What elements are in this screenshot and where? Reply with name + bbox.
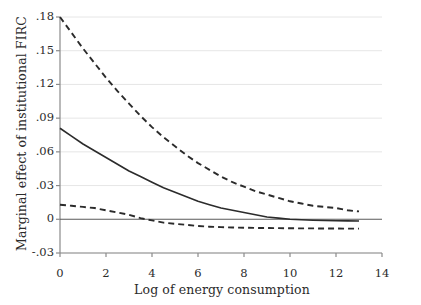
x-tick-label: 8 bbox=[240, 266, 247, 280]
y-tick-label: 0 bbox=[20, 213, 54, 225]
y-tick-label: .12 bbox=[20, 78, 54, 90]
y-tick-label: -.03 bbox=[20, 247, 54, 259]
x-tick-label: 10 bbox=[283, 266, 298, 280]
data-series bbox=[60, 17, 359, 229]
y-tick-label: .06 bbox=[20, 146, 54, 158]
y-tick-label: .03 bbox=[20, 180, 54, 192]
x-axis-title: Log of energy consumption bbox=[60, 282, 384, 297]
gridlines bbox=[60, 17, 382, 253]
y-tick-label: .09 bbox=[20, 112, 54, 124]
y-tick-label: .18 bbox=[20, 11, 54, 23]
plot-area bbox=[0, 0, 421, 305]
x-tick-label: 12 bbox=[329, 266, 344, 280]
x-tick-label: 0 bbox=[56, 266, 63, 280]
x-tick-label: 14 bbox=[375, 266, 390, 280]
x-tick-label: 6 bbox=[194, 266, 201, 280]
axis-lines bbox=[60, 17, 382, 253]
marginal-effect-chart: Marginal effect of institutional FIRC Lo… bbox=[0, 0, 421, 305]
x-tick-label: 4 bbox=[148, 266, 155, 280]
x-tick-label: 2 bbox=[102, 266, 109, 280]
y-tick-label: .15 bbox=[20, 45, 54, 57]
